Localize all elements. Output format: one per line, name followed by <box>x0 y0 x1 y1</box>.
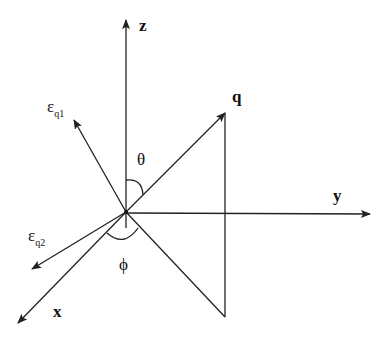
eps-q2-label: εq2 <box>28 226 45 246</box>
y-axis <box>126 213 370 214</box>
vector-diagram <box>0 0 384 339</box>
theta-label: θ <box>137 150 145 170</box>
phi-label: ϕ <box>119 255 128 275</box>
eps-q1-vector <box>74 120 126 212</box>
x-axis-label: x <box>53 302 62 322</box>
eps-q1-label: εq1 <box>47 97 64 117</box>
q-projection-xy <box>126 212 225 317</box>
q-label: q <box>232 87 241 107</box>
z-axis-label: z <box>139 16 147 36</box>
y-axis-label: y <box>333 186 342 206</box>
theta-arc <box>126 180 143 195</box>
diagram-canvas: z y x q εq1 εq2 θ ϕ <box>0 0 384 339</box>
phi-arc <box>107 228 138 239</box>
